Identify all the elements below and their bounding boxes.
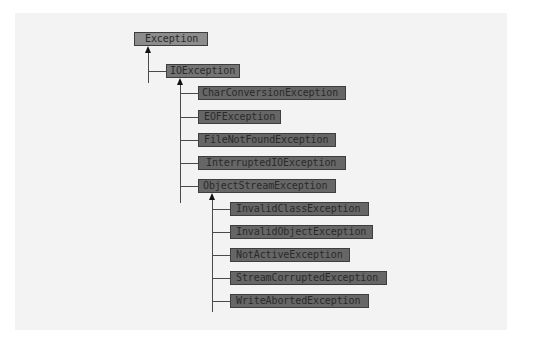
node-filenotfoundexception: FileNotFoundException [198,133,336,147]
node-eofexception: EOFException [198,110,281,124]
connector-charconversion [180,93,198,94]
node-charconversionexception: CharConversionException [198,86,346,100]
connector-invalidobject [212,232,230,233]
node-writeabortedexception: WriteAbortedException [230,294,369,308]
node-ioexception: IOException [166,64,240,78]
connector-interruptedio [180,163,198,164]
node-exception: Exception [134,32,208,46]
connector-objectstream-trunk [212,195,213,312]
connector-ioexception-trunk [180,80,181,203]
node-invalidclassexception: InvalidClassException [230,202,369,216]
arrowhead-icon [145,46,151,53]
arrowhead-icon [209,193,215,200]
node-streamcorruptedexception: StreamCorruptedException [230,271,387,285]
node-notactiveexception: NotActiveException [230,248,350,262]
node-objectstreamexception: ObjectStreamException [198,179,336,193]
arrowhead-icon [177,78,183,85]
connector-ioexception [148,71,166,72]
connector-objectstream [180,186,198,187]
connector-streamcorrupted [212,278,230,279]
connector-filenotfound [180,140,198,141]
node-invalidobjectexception: InvalidObjectException [230,225,373,239]
connector-writeaborted [212,301,230,302]
node-interruptedioexception: InterruptedIOException [198,156,346,170]
connector-notactive [212,255,230,256]
connector-exception-trunk [148,48,149,83]
connector-invalidclass [212,209,230,210]
connector-eof [180,117,198,118]
